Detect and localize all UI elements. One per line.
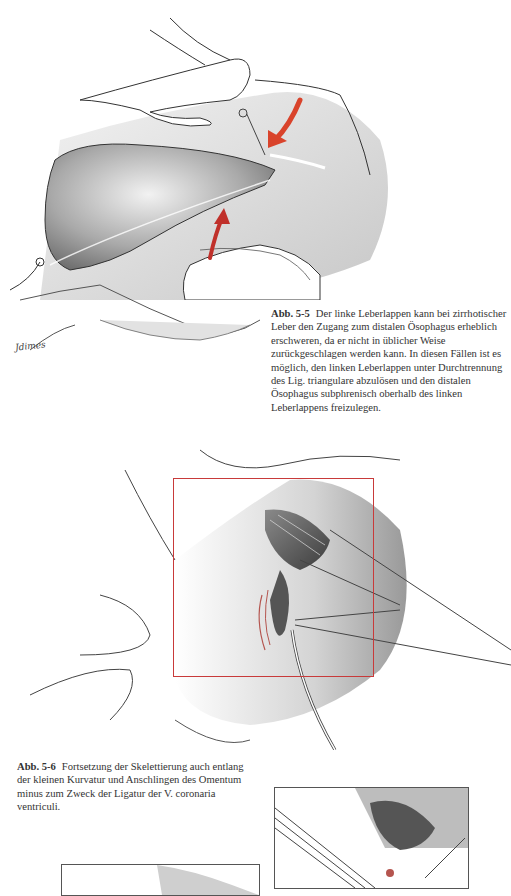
figure-5-6-caption: Abb. 5-6Fortsetzung der Skelettierung au… (17, 760, 247, 814)
figure-5-6-detail-frame (173, 478, 374, 677)
figure-5-5-caption: Abb. 5-5Der linke Leberlappen kann bei z… (271, 307, 511, 414)
next-figure-right-illustration (275, 788, 468, 888)
next-figure-left-frame (61, 864, 260, 896)
figure-5-5-illustration (0, 0, 511, 300)
next-figure-right-frame (274, 787, 469, 889)
figure-5-5-label: Abb. 5-5 (271, 308, 310, 319)
figure-5-5-text: Der linke Leberlappen kann bei zirrhotis… (271, 308, 506, 413)
next-figure-left-illustration (62, 865, 259, 895)
figure-5-6-label: Abb. 5-6 (17, 761, 56, 772)
